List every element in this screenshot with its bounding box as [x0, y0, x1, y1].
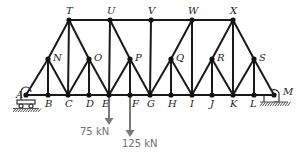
joint-label-I: I: [189, 98, 195, 109]
joint-P: [127, 56, 132, 61]
member-RK: [212, 59, 233, 95]
member-PE: [109, 59, 130, 95]
joint-label-K: K: [229, 98, 238, 109]
joint-U: [107, 17, 112, 22]
joint-Q: [168, 56, 173, 61]
truss-diagram: 75 kN125 kN ABCDEFGHIJKLMNOPQRSTUVWX: [0, 0, 300, 154]
joint-L: [251, 92, 256, 97]
joint-label-E: E: [101, 98, 110, 109]
member-TO: [69, 20, 89, 59]
joint-label-T: T: [66, 5, 74, 16]
member-NC: [48, 59, 68, 95]
joint-label-R: R: [216, 52, 225, 63]
joint-O: [86, 56, 91, 61]
joint-label-V: V: [148, 5, 157, 16]
load-label: 125 kN: [122, 138, 158, 149]
member-OC: [68, 59, 89, 95]
joint-I: [189, 92, 194, 97]
joint-label-B: B: [44, 98, 52, 109]
member-VG: [150, 20, 151, 95]
joint-V: [148, 17, 153, 22]
joint-A: [23, 92, 28, 97]
joint-D: [86, 92, 91, 97]
joint-label-L: L: [249, 98, 257, 109]
arrow-down-icon: [105, 118, 114, 125]
joint-G: [147, 92, 152, 97]
joint-H: [168, 92, 173, 97]
joint-label-C: C: [65, 98, 73, 109]
joint-label-G: G: [147, 98, 155, 109]
member-AN: [26, 59, 48, 95]
joint-T: [66, 17, 71, 22]
member-QG: [150, 59, 171, 95]
joint-B: [45, 92, 50, 97]
member-RI: [192, 59, 212, 95]
joint-label-N: N: [52, 52, 63, 63]
member-QI: [171, 59, 192, 95]
member-OE: [89, 59, 109, 95]
member-SM: [254, 59, 274, 95]
joint-label-A: A: [15, 89, 23, 100]
joint-label-S: S: [259, 52, 266, 63]
joint-X: [230, 17, 235, 22]
joint-J: [209, 92, 214, 97]
joint-R: [209, 56, 214, 61]
member-UP: [110, 20, 130, 59]
arrow-down-icon: [126, 130, 135, 137]
member-SK: [233, 59, 254, 95]
joint-F: [127, 92, 132, 97]
joint-N: [45, 56, 50, 61]
joint-label-W: W: [188, 5, 199, 16]
member-XS: [233, 20, 254, 59]
load-label: 75 kN: [80, 126, 109, 137]
joint-K: [230, 92, 235, 97]
truss-members: [26, 20, 274, 95]
joint-label-H: H: [167, 98, 177, 109]
joint-label-F: F: [131, 98, 140, 109]
joint-label-M: M: [282, 86, 294, 97]
joint-label-X: X: [229, 5, 238, 16]
joint-label-P: P: [134, 52, 142, 63]
joint-C: [65, 92, 70, 97]
joint-label-J: J: [208, 98, 215, 109]
member-PG: [130, 59, 150, 95]
joint-label-Q: Q: [176, 52, 184, 63]
joint-label-D: D: [85, 98, 94, 109]
joint-M: [271, 92, 276, 97]
joint-E: [106, 92, 111, 97]
member-UE: [109, 20, 110, 95]
joint-S: [251, 56, 256, 61]
member-TC: [68, 20, 69, 95]
joint-W: [189, 17, 194, 22]
joint-label-U: U: [107, 5, 116, 16]
joint-label-O: O: [94, 52, 102, 63]
